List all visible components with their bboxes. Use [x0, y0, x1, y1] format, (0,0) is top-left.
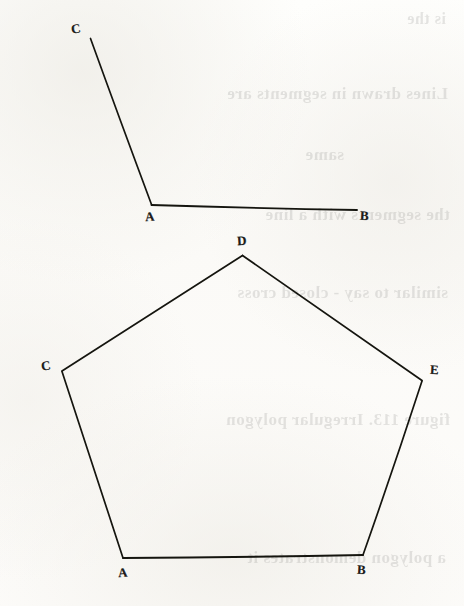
label-angle-c: C — [70, 21, 81, 35]
segment-a-b — [152, 205, 358, 210]
pentagon-figure — [62, 256, 422, 559]
label-pentagon-d: D — [237, 234, 247, 248]
label-pentagon-a: A — [118, 566, 128, 580]
segment-a-c — [62, 372, 123, 559]
segment-c-a — [91, 39, 152, 205]
label-pentagon-e: E — [430, 363, 439, 376]
segment-c-d — [62, 256, 243, 372]
segment-b-a — [123, 555, 363, 558]
label-pentagon-b: B — [357, 563, 366, 576]
label-pentagon-c: C — [40, 358, 51, 372]
segment-e-b — [363, 381, 422, 555]
label-angle-b: B — [360, 209, 369, 222]
segment-d-e — [243, 256, 423, 381]
scanned-page: is the Lines drawn in segments are same … — [0, 0, 464, 606]
angle-figure — [91, 39, 358, 211]
figures-canvas — [0, 0, 464, 606]
label-angle-a: A — [145, 210, 155, 224]
